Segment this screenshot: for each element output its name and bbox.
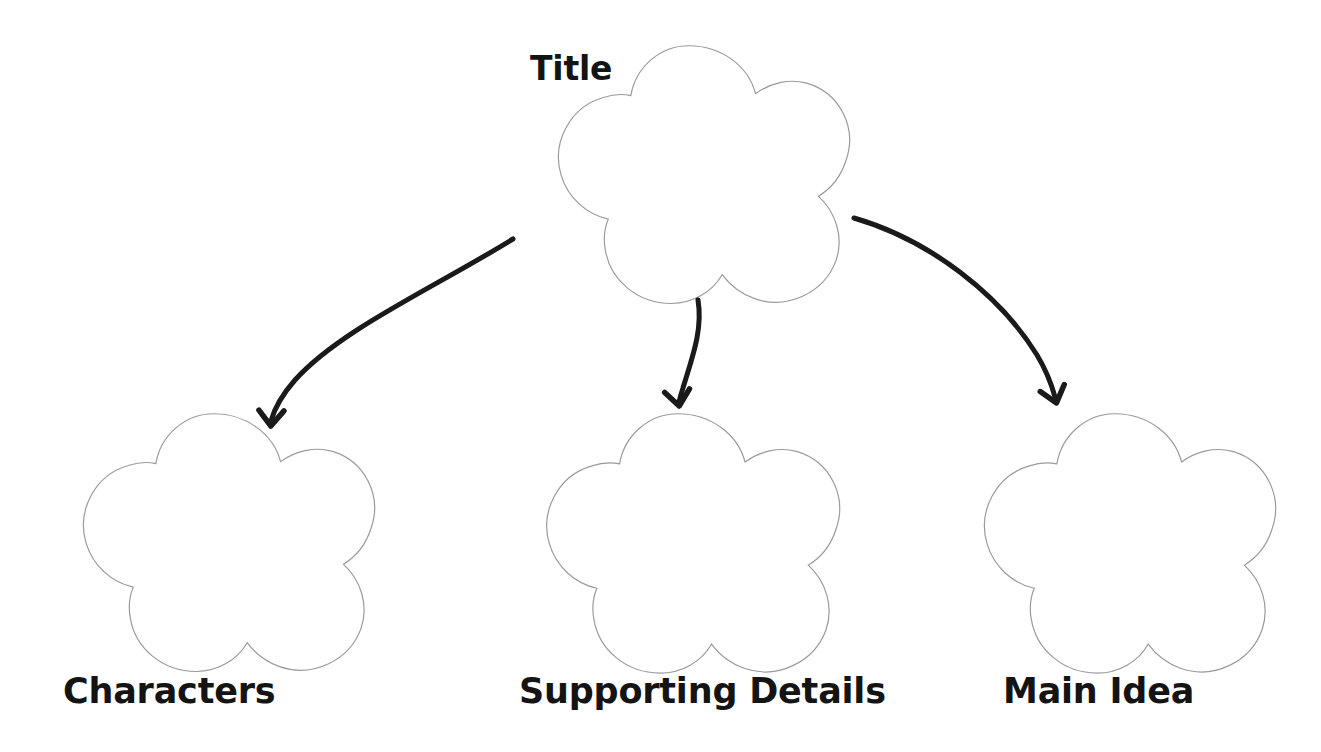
node-label-supporting-details: Supporting Details <box>519 674 886 709</box>
node-label-main-idea: Main Idea <box>1003 674 1194 709</box>
node-label-title: Title <box>530 52 612 85</box>
arrow-title-to-characters <box>258 239 513 427</box>
node-shape-characters[interactable] <box>83 414 374 672</box>
node-shape-main-idea[interactable] <box>984 414 1275 673</box>
diagram-canvas: Title Characters Supporting Details Main… <box>0 0 1321 752</box>
node-label-characters: Characters <box>63 674 275 709</box>
diagram-svg <box>0 0 1321 752</box>
arrow-title-to-supporting-details <box>665 300 700 407</box>
arrow-title-to-main-idea <box>854 218 1068 406</box>
node-shape-supporting-details[interactable] <box>547 414 840 673</box>
